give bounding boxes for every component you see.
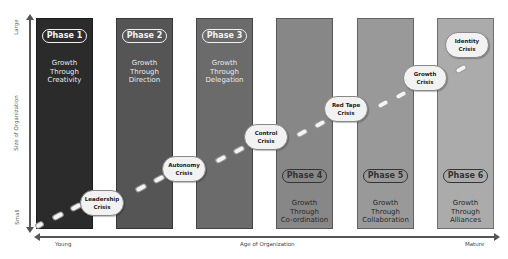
growth-line: Through xyxy=(197,68,252,77)
growth-line: Growth xyxy=(197,59,252,68)
crisis-line: Leadership xyxy=(81,195,123,203)
y-axis-high-label: Large xyxy=(13,19,19,34)
y-axis-low-label: Small xyxy=(14,209,20,224)
phase-growth-text: Growth Through Creativity xyxy=(37,59,92,85)
growth-line: Collaboration xyxy=(358,216,413,225)
growth-line: Co-ordination xyxy=(277,216,332,225)
phase-label: Phase 4 xyxy=(282,169,327,183)
crisis-line: Control xyxy=(245,129,287,137)
y-axis-arrow-down-icon xyxy=(26,227,34,233)
x-axis-title: Age of Organization xyxy=(240,241,295,247)
phase-label: Phase 5 xyxy=(363,169,408,183)
phase-bar-2: Phase 2 Growth Through Direction xyxy=(116,18,173,229)
growth-line: Growth xyxy=(438,199,493,208)
x-axis-high-label: Mature xyxy=(465,241,484,247)
phase-growth-text: Growth Through Direction xyxy=(117,59,172,85)
crisis-line: Red Tape xyxy=(325,101,367,109)
crisis-bubble-autonomy: Autonomy Crisis xyxy=(162,156,206,182)
x-axis-arrow-right-icon xyxy=(494,233,500,241)
growth-line: Creativity xyxy=(37,76,92,85)
phase-label: Phase 1 xyxy=(42,29,87,43)
phase-growth-text: Growth Through Delegation xyxy=(197,59,252,85)
crisis-line: Crisis xyxy=(404,78,446,86)
crisis-line: Crisis xyxy=(163,169,205,177)
growth-line: Growth xyxy=(358,199,413,208)
growth-line: Through xyxy=(37,68,92,77)
y-axis-arrow-up-icon xyxy=(26,14,34,20)
x-axis-line xyxy=(38,236,496,238)
y-axis-line xyxy=(29,18,31,230)
phase-growth-text: Growth Through Alliances xyxy=(438,199,493,225)
growth-line: Growth xyxy=(37,59,92,68)
phase-bar-3: Phase 3 Growth Through Delegation xyxy=(196,18,253,229)
crisis-bubble-leadership: Leadership Crisis xyxy=(80,190,124,216)
crisis-line: Autonomy xyxy=(163,161,205,169)
growth-line: Through xyxy=(438,208,493,217)
growth-line: Through xyxy=(117,68,172,77)
phase-label: Phase 6 xyxy=(443,169,488,183)
crisis-line: Crisis xyxy=(81,203,123,211)
crisis-bubble-identity: Identity Crisis xyxy=(445,32,489,58)
growth-line: Through xyxy=(277,208,332,217)
growth-line: Through xyxy=(358,208,413,217)
growth-line: Delegation xyxy=(197,76,252,85)
crisis-line: Growth xyxy=(404,70,446,78)
phase-growth-text: Growth Through Collaboration xyxy=(358,199,413,225)
crisis-line: Identity xyxy=(446,37,488,45)
growth-line: Growth xyxy=(117,59,172,68)
phase-label: Phase 3 xyxy=(202,29,247,43)
x-axis-low-label: Young xyxy=(55,241,71,247)
crisis-bubble-growth: Growth Crisis xyxy=(403,65,447,91)
growth-line: Alliances xyxy=(438,216,493,225)
crisis-line: Crisis xyxy=(245,137,287,145)
x-axis-arrow-left-icon xyxy=(34,233,40,241)
phase-growth-text: Growth Through Co-ordination xyxy=(277,199,332,225)
phase-label: Phase 2 xyxy=(122,29,167,43)
crisis-line: Crisis xyxy=(325,109,367,117)
crisis-line: Crisis xyxy=(446,45,488,53)
y-axis-title: Size of Organization xyxy=(13,95,19,150)
growth-line: Growth xyxy=(277,199,332,208)
crisis-bubble-control: Control Crisis xyxy=(244,124,288,150)
phase-bar-5: Phase 5 Growth Through Collaboration xyxy=(357,18,414,229)
crisis-bubble-red-tape: Red Tape Crisis xyxy=(324,96,368,122)
growth-line: Direction xyxy=(117,76,172,85)
